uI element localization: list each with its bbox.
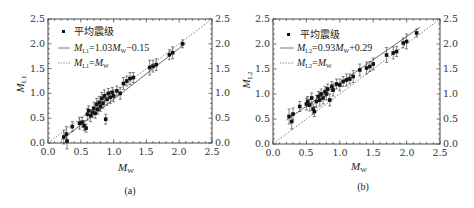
y-tick-label: 1.0 xyxy=(30,87,45,98)
panel-a: 0.0 0.5 1.0 1.5 2.0 2.5 0.0 0.5 1.0 1.5 … xyxy=(14,13,230,197)
x-tick-label: 2.0 xyxy=(399,147,414,158)
y-axis-label: ML1 xyxy=(14,75,28,93)
data-point xyxy=(338,83,342,87)
data-point xyxy=(118,92,122,96)
legend-label: ML2=MW xyxy=(296,57,332,69)
data-point xyxy=(128,77,132,81)
x-tick-label: 0.5 xyxy=(298,147,313,158)
data-point xyxy=(308,103,312,107)
figure: 0.0 0.5 1.0 1.5 2.0 2.5 0.0 0.5 1.0 1.5 … xyxy=(0,0,474,208)
data-point xyxy=(181,42,185,46)
y-axis-label: ML2 xyxy=(240,71,254,89)
data-point xyxy=(104,117,108,121)
y-tick-label: 2.5 xyxy=(255,13,270,24)
panel-caption: (a) xyxy=(124,185,135,197)
x-tick-label: 1.5 xyxy=(138,146,153,157)
x-tick-label: 0.0 xyxy=(40,146,55,157)
x-tick-label: 2.5 xyxy=(432,147,447,158)
data-point xyxy=(405,40,409,44)
data-point xyxy=(70,125,74,129)
y-tick-label: 2.0 xyxy=(255,38,270,49)
data-point xyxy=(365,66,369,70)
legend-label: ML1=1.03MW−0.15 xyxy=(73,42,149,54)
data-point xyxy=(131,76,135,80)
data-point xyxy=(331,88,335,92)
data-point xyxy=(345,78,349,82)
y2-tick-label: 1.0 xyxy=(215,87,230,98)
panel-b: 0.0 0.5 1.0 1.5 2.0 2.5 0.0 0.5 1.0 1.5 … xyxy=(240,13,458,193)
data-point xyxy=(171,51,175,55)
y-tick-label: 0.5 xyxy=(255,113,270,124)
data-point xyxy=(107,92,111,96)
x-tick-label: 2.5 xyxy=(204,146,219,157)
x-tick-label: 0.0 xyxy=(265,147,280,158)
data-point xyxy=(306,100,310,104)
data-point xyxy=(348,77,352,81)
y2-tick-label: 2.5 xyxy=(215,13,230,24)
data-point xyxy=(112,94,116,98)
y-tick-label: 2.5 xyxy=(30,13,45,24)
x-tick-label: 0.5 xyxy=(73,146,88,157)
legend: 平均震级 ML2=0.93MW+0.29 ML2=MW xyxy=(280,29,372,69)
data-point xyxy=(328,98,332,102)
data-point xyxy=(391,51,395,55)
y2-tick-label: 0.5 xyxy=(443,113,458,124)
data-point xyxy=(326,87,330,91)
legend-label: 平均震级 xyxy=(300,29,340,40)
data-point xyxy=(84,126,88,130)
data-point xyxy=(125,79,129,83)
data-point xyxy=(310,96,314,100)
data-point xyxy=(148,66,152,70)
y2-tick-label: 2.5 xyxy=(443,13,458,24)
x-axis-label: MW xyxy=(350,160,367,174)
data-point xyxy=(151,64,155,68)
legend-marker-icon xyxy=(287,33,290,36)
y-tick-label: 1.5 xyxy=(30,63,45,74)
data-point xyxy=(371,62,375,66)
x-axis-label: MW xyxy=(117,161,134,175)
identity-line xyxy=(273,19,440,144)
data-point xyxy=(415,31,419,35)
data-point xyxy=(154,63,158,67)
data-point xyxy=(335,82,339,86)
y-tick-label: 0.5 xyxy=(30,112,45,123)
x-tick-label: 1.5 xyxy=(365,147,380,158)
legend: 平均震级 ML1=1.03MW−0.15 ML1=MW xyxy=(58,26,149,69)
data-point xyxy=(115,89,119,93)
data-point xyxy=(319,92,323,96)
data-point xyxy=(65,139,69,143)
x-tick-label: 1.0 xyxy=(106,146,121,157)
data-point xyxy=(168,53,172,57)
data-point xyxy=(103,94,107,98)
legend-label: ML1=MW xyxy=(73,57,109,69)
data-point xyxy=(291,112,295,116)
legend-marker-icon xyxy=(62,30,65,33)
data-point xyxy=(287,115,291,119)
data-point xyxy=(395,50,399,54)
data-point xyxy=(401,41,405,45)
data-point xyxy=(298,105,302,109)
y2-tick-label: 1.5 xyxy=(215,63,230,74)
y-tick-label: 2.0 xyxy=(30,38,45,49)
y2-tick-label: 1.0 xyxy=(443,88,458,99)
y-tick-label: 1.5 xyxy=(255,63,270,74)
data-point xyxy=(385,53,389,57)
data-point xyxy=(341,80,345,84)
data-point xyxy=(313,110,317,114)
x-tick-label: 1.0 xyxy=(332,147,347,158)
y2-tick-label: 2.0 xyxy=(215,38,230,49)
panel-caption: (b) xyxy=(357,181,369,193)
y2-tick-label: 0.5 xyxy=(215,112,230,123)
data-layer xyxy=(273,19,440,144)
data-point xyxy=(358,68,362,72)
legend-label: ML2=0.93MW+0.29 xyxy=(296,42,372,54)
x-tick-label: 2.0 xyxy=(171,146,186,157)
data-layer xyxy=(48,19,212,149)
y-tick-label: 1.0 xyxy=(255,88,270,99)
data-point xyxy=(351,75,355,79)
data-point xyxy=(122,82,126,86)
y2-tick-label: 1.5 xyxy=(443,63,458,74)
legend-label: 平均震级 xyxy=(74,26,114,37)
y2-tick-label: 2.0 xyxy=(443,38,458,49)
data-point xyxy=(368,65,372,69)
